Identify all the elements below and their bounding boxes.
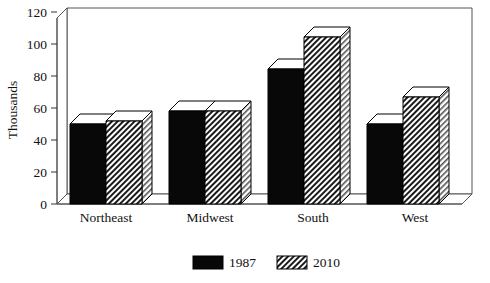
y-tick-label-120: 120 — [27, 5, 48, 20]
y-tick-label-80: 80 — [34, 69, 48, 84]
legend-item-1987: 1987 — [193, 255, 256, 270]
legend-item-2010: 2010 — [277, 255, 340, 270]
y-tick-label-0: 0 — [40, 197, 47, 212]
x-tick-label-south: South — [297, 210, 329, 225]
legend-label-2010: 2010 — [313, 255, 340, 270]
x-tick-label-northeast: Northeast — [80, 210, 133, 225]
plot-left-wall — [57, 8, 67, 204]
x-tick-label-west: West — [402, 210, 429, 225]
y-axis: 120 100 80 60 40 20 0 — [27, 5, 57, 212]
bar-chart: 120 100 80 60 40 20 0 Thousands — [0, 0, 490, 283]
bar-west-2010 — [403, 87, 449, 204]
y-axis-title: Thousands — [5, 81, 20, 140]
legend-label-1987: 1987 — [229, 255, 256, 270]
bar-northeast-2010 — [106, 111, 152, 204]
y-tick-label-20: 20 — [34, 165, 48, 180]
bar-south-2010 — [304, 27, 350, 204]
x-axis: Northeast Midwest South West — [80, 210, 429, 225]
chart-legend: 1987 2010 — [193, 255, 340, 270]
chart-canvas: 120 100 80 60 40 20 0 Thousands — [0, 0, 490, 283]
y-tick-label-100: 100 — [27, 37, 48, 52]
bar-midwest-2010 — [205, 101, 251, 204]
x-tick-label-midwest: Midwest — [186, 210, 233, 225]
y-tick-label-60: 60 — [34, 101, 48, 116]
legend-swatch-2010 — [277, 256, 307, 269]
y-tick-label-40: 40 — [34, 133, 48, 148]
legend-swatch-1987 — [193, 256, 223, 269]
